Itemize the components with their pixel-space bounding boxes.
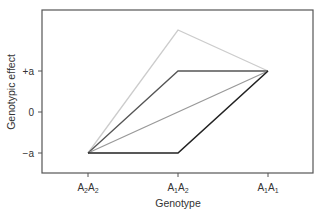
series-line-2 <box>88 71 268 153</box>
y-tick-label: +a <box>23 66 35 77</box>
chart: +a0−a A2A2A1A2A1A1 Genotypic effect Geno… <box>0 0 319 217</box>
y-axis-title: Genotypic effect <box>5 54 17 130</box>
x-tick-label: A2A2 <box>77 182 98 194</box>
x-tick-label: A1A2 <box>167 182 188 194</box>
y-tick-label: −a <box>23 148 35 159</box>
x-axis: A2A2A1A2A1A1 <box>77 173 278 194</box>
y-tick-label: 0 <box>28 107 34 118</box>
plot-area <box>88 30 268 153</box>
plot-frame <box>42 10 313 173</box>
x-axis-title: Genotype <box>155 197 201 209</box>
x-tick-label: A1A1 <box>257 182 278 194</box>
y-axis: +a0−a <box>23 66 42 159</box>
series-line-0 <box>88 30 268 153</box>
